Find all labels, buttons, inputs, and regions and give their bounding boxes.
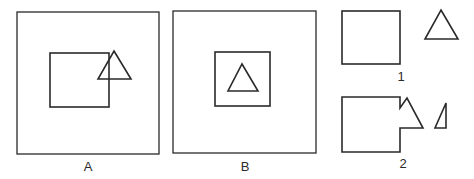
panel-b-square: [215, 52, 270, 106]
panel-b-frame: [173, 11, 316, 153]
panel-b-label: B: [241, 160, 250, 173]
panel-1: [342, 10, 458, 64]
panel-b: [173, 11, 316, 153]
panel-b-triangle: [228, 64, 258, 91]
panel-2: [342, 97, 446, 152]
figure-canvas: [0, 0, 474, 179]
panel-2-small-triangle: [435, 103, 446, 128]
panel-1-label: 1: [397, 70, 404, 83]
panel-a: [17, 12, 159, 154]
panel-2-notched-shape: [342, 97, 423, 152]
panel-a-triangle: [98, 51, 131, 79]
panel-a-frame: [17, 12, 159, 154]
panel-2-label: 2: [399, 157, 406, 170]
panel-a-label: A: [84, 160, 93, 173]
panel-1-triangle: [425, 10, 458, 39]
panel-a-rectangle: [50, 53, 109, 107]
panel-1-rectangle: [342, 11, 400, 64]
